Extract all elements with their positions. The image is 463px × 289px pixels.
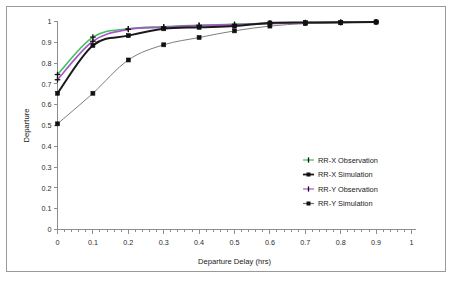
y-tick-label: 0: [48, 225, 52, 234]
y-tick-label: 0.4: [42, 142, 52, 151]
y-tick-label: 0.2: [42, 184, 52, 193]
chart-container: 00.10.20.30.40.50.60.70.80.91 00.10.20.3…: [0, 0, 463, 289]
x-axis-title: Departure Delay (hrs): [198, 257, 271, 266]
legend-marker: [307, 202, 311, 206]
data-point-marker: [233, 24, 237, 28]
x-tick-label: 0.8: [336, 238, 346, 247]
y-tick-label: 0.3: [42, 163, 52, 172]
legend-label: RR-X Simulation: [318, 170, 373, 179]
data-point-marker: [233, 29, 237, 33]
x-tick-label: 0.7: [300, 238, 310, 247]
series-rr-x-observation: [55, 19, 379, 77]
series-group: [55, 19, 379, 126]
data-point-marker: [56, 122, 60, 126]
data-point-marker: [197, 36, 201, 40]
data-point-marker: [56, 91, 60, 95]
x-tick-label: 0.9: [371, 238, 381, 247]
line-chart: 00.10.20.30.40.50.60.70.80.91 00.10.20.3…: [0, 0, 463, 289]
legend-item-rr-y-observation: RR-Y Observation: [303, 185, 378, 194]
y-tick-label: 0.9: [42, 38, 52, 47]
legend: RR-X ObservationRR-X SimulationRR-Y Obse…: [303, 156, 378, 209]
x-tick-label: 0.3: [159, 238, 169, 247]
y-tick-label: 0.8: [42, 59, 52, 68]
y-tick-labels: 00.10.20.30.40.50.60.70.80.91: [42, 17, 52, 234]
x-tick-label: 0: [56, 238, 60, 247]
series-rr-x-simulation: [56, 20, 379, 95]
x-tick-label: 0.4: [194, 238, 204, 247]
data-point-marker: [374, 20, 378, 24]
legend-label: RR-X Observation: [318, 156, 378, 165]
x-tick-label: 0.1: [88, 238, 98, 247]
data-point-marker: [126, 34, 130, 38]
data-point-marker: [162, 43, 166, 47]
series-rr-y-observation: [55, 19, 379, 82]
x-tick-labels: 00.10.20.30.40.50.60.70.80.91: [56, 238, 414, 247]
series-path: [58, 22, 377, 93]
y-axis-title: Departure: [22, 109, 31, 143]
x-tick-label: 0.6: [265, 238, 275, 247]
y-tick-label: 0.7: [42, 80, 52, 89]
legend-item-rr-x-simulation: RR-X Simulation: [303, 170, 373, 179]
data-point-marker: [197, 25, 201, 29]
legend-item-rr-x-observation: RR-X Observation: [303, 156, 378, 165]
x-tick-label: 1: [410, 238, 414, 247]
y-tick-label: 1: [48, 17, 52, 26]
data-point-marker: [126, 58, 130, 62]
data-point-marker: [339, 20, 343, 24]
series-path: [58, 22, 377, 80]
data-point-marker: [91, 43, 95, 47]
legend-marker: [307, 173, 311, 177]
y-tick-label: 0.1: [42, 204, 52, 213]
x-tick-label: 0.5: [230, 238, 240, 247]
series-path: [58, 22, 377, 124]
legend-label: RR-Y Observation: [318, 185, 378, 194]
data-point-marker: [268, 21, 272, 25]
data-point-marker: [91, 91, 95, 95]
y-tick-label: 0.6: [42, 100, 52, 109]
y-tick-label: 0.5: [42, 121, 52, 130]
x-tick-label: 0.2: [123, 238, 133, 247]
legend-item-rr-y-simulation: RR-Y Simulation: [303, 199, 373, 208]
data-point-marker: [303, 21, 307, 25]
series-path: [58, 22, 377, 75]
legend-label: RR-Y Simulation: [318, 199, 373, 208]
data-point-marker: [162, 27, 166, 31]
